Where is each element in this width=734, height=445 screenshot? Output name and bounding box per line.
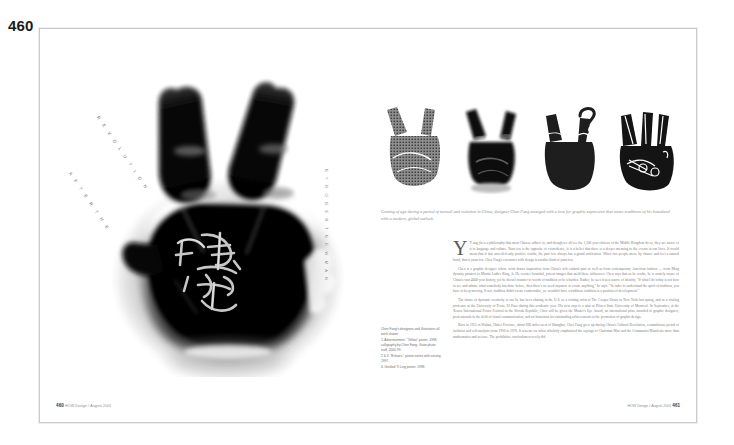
thumbnail-row bbox=[381, 102, 679, 194]
body-paragraph: YY ang jin is a philosophy that most Chi… bbox=[453, 241, 679, 264]
left-page: R E V O L U T I O N A F T E R T H E B Y … bbox=[40, 29, 368, 422]
hand-variant-xray-dark bbox=[458, 102, 524, 194]
credit-item: Chen Fang's designers and illustrators a… bbox=[381, 327, 443, 337]
credit-item: 1. Advertisement, "Yellow" poster, 1998,… bbox=[381, 338, 443, 352]
hand-variant-silhouette-question-mark bbox=[536, 102, 602, 194]
credits-column: Chen Fang's designers and illustrators a… bbox=[381, 327, 443, 372]
magazine-spread: R E V O L U T I O N A F T E R T H E B Y … bbox=[39, 28, 697, 423]
folio-right: HOW Design / August 2001 461 bbox=[627, 403, 680, 408]
byline-robert-newman: B Y R O B E R T N E W M A N bbox=[324, 169, 329, 282]
xray-hand-artwork bbox=[78, 47, 356, 377]
folio-left-number: 460 bbox=[56, 403, 64, 408]
right-page: Coming of age during a period of turmoil… bbox=[368, 29, 696, 422]
body-paragraph: Born in 1955 in Wuhan, Hubei Province, a… bbox=[453, 323, 679, 340]
screenshot-root: 460 bbox=[0, 0, 734, 445]
body-paragraph-text: Y ang jin is a philosophy that most Chin… bbox=[453, 241, 679, 262]
credit-item: 4. Untitled Yi Ling poster, 1998. bbox=[381, 365, 443, 370]
drop-cap: Y bbox=[453, 241, 467, 256]
article-body: YY ang jin is a philosophy that most Chi… bbox=[453, 241, 679, 343]
credit-item: 2 & 3. "Echoes," poster series with soci… bbox=[381, 354, 443, 364]
hand-variant-halftone-texture bbox=[381, 102, 447, 194]
folio-right-text: HOW Design / August 2001 bbox=[627, 404, 671, 408]
folio-right-number: 461 bbox=[672, 403, 680, 408]
body-paragraph: The future of dynamic creativity is one … bbox=[453, 298, 679, 321]
page-number-label: 460 bbox=[8, 17, 34, 34]
folio-left-text: HOW Design / August 2001 bbox=[65, 404, 111, 408]
hand-variant-line-drawing-scissors bbox=[613, 102, 679, 194]
body-paragraph: Chen is a graphic designer whose work dr… bbox=[453, 267, 679, 296]
thumbnail-caption: Coming of age during a period of turmoil… bbox=[381, 209, 677, 223]
folio-left: 460 HOW Design / August 2001 bbox=[56, 403, 111, 408]
